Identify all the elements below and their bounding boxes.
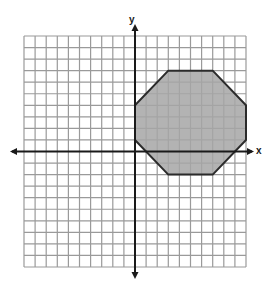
x-axis-arrow-right-icon: [247, 148, 254, 155]
coordinate-plane: x y: [0, 0, 271, 289]
x-axis-arrow-left-icon: [10, 148, 17, 155]
octagon: [135, 71, 246, 175]
x-axis-label: x: [256, 145, 262, 156]
y-axis-label: y: [129, 14, 135, 25]
y-axis-arrow-up-icon: [132, 24, 139, 31]
y-axis-arrow-down-icon: [132, 272, 139, 279]
